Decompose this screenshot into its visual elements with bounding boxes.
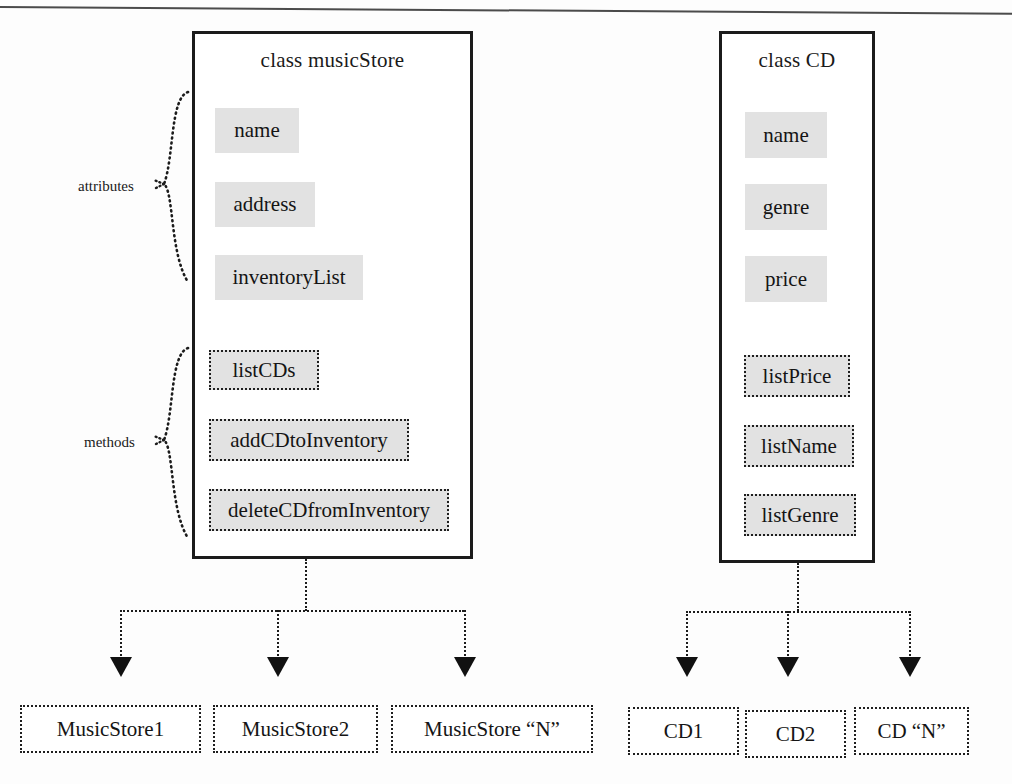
group-label-methods: methods: [84, 434, 135, 451]
method-music-store-add-cd-to-inventory[interactable]: addCDtoInventory: [209, 419, 409, 461]
attribute-cd-name[interactable]: name: [745, 112, 827, 158]
connector-cd-branch-1: [686, 611, 688, 660]
instance-cd-1[interactable]: CD1: [628, 707, 739, 755]
group-label-attributes: attributes: [78, 178, 134, 195]
method-cd-list-name[interactable]: listName: [744, 425, 854, 467]
attribute-music-store-address[interactable]: address: [215, 182, 315, 227]
connector-cd-bus: [686, 611, 910, 613]
instance-music-store-n[interactable]: MusicStore “N”: [391, 705, 593, 753]
connector-music-store-branch-2: [277, 610, 279, 660]
arrowhead-music-store-2: [267, 657, 289, 677]
attributes-brace-icon: [148, 88, 194, 288]
methods-brace-icon: [148, 344, 194, 544]
arrowhead-music-store-1: [110, 657, 132, 677]
attribute-music-store-name[interactable]: name: [215, 108, 299, 153]
instance-music-store-1[interactable]: MusicStore1: [20, 705, 201, 753]
method-cd-list-genre[interactable]: listGenre: [744, 494, 856, 536]
method-music-store-delete-cd-from-inventory[interactable]: deleteCDfromInventory: [209, 489, 449, 531]
attribute-cd-price[interactable]: price: [745, 256, 827, 302]
class-diagram-canvas: attributes methods class musicStore name…: [0, 0, 1012, 784]
connector-cd-branch-3: [909, 611, 911, 660]
arrowhead-cd-1: [676, 657, 698, 677]
method-cd-list-price[interactable]: listPrice: [744, 355, 850, 397]
class-title-music-store: class musicStore: [195, 48, 470, 73]
arrowhead-music-store-3: [454, 657, 476, 677]
instance-music-store-2[interactable]: MusicStore2: [213, 705, 378, 753]
instance-cd-2[interactable]: CD2: [745, 710, 846, 758]
class-title-cd: class CD: [722, 48, 872, 73]
page-top-rule: [0, 6, 1012, 15]
arrowhead-cd-3: [899, 657, 921, 677]
attribute-music-store-inventory-list[interactable]: inventoryList: [215, 255, 363, 300]
connector-cd-branch-2: [787, 611, 789, 660]
attribute-cd-genre[interactable]: genre: [745, 184, 827, 230]
connector-music-store-branch-1: [120, 610, 122, 660]
method-music-store-list-cds[interactable]: listCDs: [209, 350, 319, 390]
connector-cd-trunk: [797, 563, 799, 611]
connector-music-store-trunk: [305, 559, 307, 611]
instance-cd-n[interactable]: CD “N”: [854, 707, 969, 755]
arrowhead-cd-2: [777, 657, 799, 677]
connector-music-store-bus: [120, 610, 464, 612]
connector-music-store-branch-3: [464, 610, 466, 660]
